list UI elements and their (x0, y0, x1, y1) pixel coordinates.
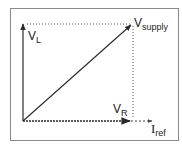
vr-label-sub: R (121, 108, 128, 118)
vl-label-main: V (28, 29, 36, 43)
vl-label: VL (28, 30, 41, 42)
vr-label-main: V (113, 102, 121, 116)
vsupply-label-sub: supply (142, 22, 168, 32)
iref-label: Iref (151, 122, 166, 135)
vsupply-label-main: V (134, 16, 142, 30)
iref-label-sub: ref (155, 128, 166, 138)
vr-label: VR (113, 103, 128, 115)
vl-label-sub: L (36, 35, 41, 45)
vsupply-label: Vsupply (134, 17, 168, 29)
